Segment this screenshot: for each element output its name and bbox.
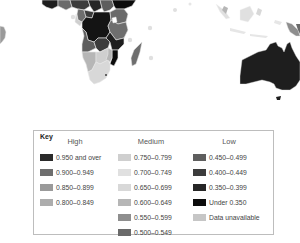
color-swatch xyxy=(118,214,131,221)
key-item: 0.900–0.949 xyxy=(40,165,110,180)
region-lesser-sunda xyxy=(250,34,268,38)
region-sulawesi xyxy=(256,8,262,16)
key-item: Under 0.350 xyxy=(193,195,261,210)
map-key: Key High 0.950 and over 0.900–0.949 0.85… xyxy=(33,130,274,235)
color-swatch xyxy=(193,199,206,206)
region-lake xyxy=(112,17,117,23)
key-item-label: 0.800–0.849 xyxy=(56,199,94,206)
key-group-heading: Medium xyxy=(118,137,184,147)
island-cape-verde-area xyxy=(71,15,75,19)
key-item-label: 0.350–0.399 xyxy=(209,184,247,191)
key-item: 0.650–0.699 xyxy=(118,180,184,195)
region-australia xyxy=(240,42,300,90)
key-group-low: Low 0.450–0.499 0.400–0.449 0.350–0.399 … xyxy=(193,137,261,225)
color-swatch xyxy=(193,184,206,191)
island-comoros xyxy=(128,38,132,42)
region-borneo xyxy=(240,6,254,22)
key-item: 0.750–0.799 xyxy=(118,150,184,165)
key-item: 0.600–0.649 xyxy=(118,195,184,210)
key-group-high: High 0.950 and over 0.900–0.949 0.850–0.… xyxy=(40,137,110,210)
key-item-label: 0.500–0.549 xyxy=(134,229,172,236)
region-south-america xyxy=(0,26,6,44)
color-swatch xyxy=(118,199,131,206)
key-item: 0.550–0.599 xyxy=(118,210,184,225)
region-sahel-1 xyxy=(58,0,72,10)
color-swatch xyxy=(193,214,206,221)
key-item-label: 0.600–0.649 xyxy=(134,199,172,206)
island-north xyxy=(173,8,177,12)
key-item: 0.500–0.549 xyxy=(118,225,184,240)
world-map-graphic xyxy=(0,0,300,125)
key-item-label: Under 0.350 xyxy=(209,199,246,206)
color-swatch xyxy=(118,169,131,176)
island-mauritius xyxy=(149,56,153,60)
color-swatch xyxy=(118,154,131,161)
key-group-heading: Low xyxy=(193,137,261,147)
key-item-label: 0.950 and over xyxy=(56,154,101,161)
region-sahel-2 xyxy=(70,0,90,10)
island-top xyxy=(189,3,192,6)
key-item: 0.450–0.499 xyxy=(193,150,261,165)
key-item-label: 0.400–0.449 xyxy=(209,169,247,176)
region-lesotho xyxy=(105,74,107,76)
key-item: 0.700–0.749 xyxy=(118,165,184,180)
color-swatch xyxy=(40,199,53,206)
region-horn-1 xyxy=(100,0,114,12)
region-tasmania xyxy=(276,96,281,100)
key-group-heading: High xyxy=(40,137,110,147)
color-swatch xyxy=(118,229,131,236)
key-item-label: 0.750–0.799 xyxy=(134,154,172,161)
region-west-africa xyxy=(42,0,58,9)
key-item-label: 0.650–0.699 xyxy=(134,184,172,191)
color-swatch xyxy=(40,169,53,176)
region-madagascar xyxy=(131,42,142,66)
key-item-label: 0.550–0.599 xyxy=(134,214,172,221)
region-timor xyxy=(274,20,282,25)
key-item: 0.400–0.449 xyxy=(193,165,261,180)
key-item-label: 0.850–0.899 xyxy=(56,184,94,191)
color-swatch xyxy=(193,154,206,161)
key-item: 0.850–0.899 xyxy=(40,180,110,195)
key-item: 0.950 and over xyxy=(40,150,110,165)
key-item-label: 0.450–0.499 xyxy=(209,154,247,161)
key-item-label: Data unavailable xyxy=(209,214,260,221)
key-group-medium: Medium 0.750–0.799 0.700–0.749 0.650–0.6… xyxy=(118,137,184,240)
region-horn-2 xyxy=(112,0,136,9)
region-sumatra xyxy=(216,4,230,19)
key-item: Data unavailable xyxy=(193,210,261,225)
color-swatch xyxy=(193,169,206,176)
region-sahel-3 xyxy=(88,0,102,12)
key-item-label: 0.700–0.749 xyxy=(134,169,172,176)
key-item: 0.800–0.849 xyxy=(40,195,110,210)
color-swatch xyxy=(118,184,131,191)
choropleth-map xyxy=(0,0,300,125)
region-java xyxy=(230,28,246,34)
color-swatch xyxy=(40,184,53,191)
island-seychelles xyxy=(148,26,152,30)
key-item: 0.350–0.399 xyxy=(193,180,261,195)
color-swatch xyxy=(40,154,53,161)
key-item-label: 0.900–0.949 xyxy=(56,169,94,176)
